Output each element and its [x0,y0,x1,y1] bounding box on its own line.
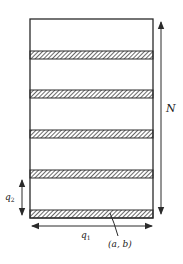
stripe-3 [30,130,153,138]
stripe-2 [30,90,153,98]
point-label: (a, b) [108,239,132,249]
stripe-5-bottom [30,210,153,218]
outer-rectangle [30,19,153,218]
lattice-strip-diagram: N q2 q1 (a, b) [0,0,183,264]
q2-label: q2 [5,192,15,203]
height-label: N [165,102,176,115]
stripe-4 [30,170,153,178]
hatched-stripes [30,51,153,218]
q1-label: q1 [81,230,91,241]
stripe-1 [30,51,153,59]
